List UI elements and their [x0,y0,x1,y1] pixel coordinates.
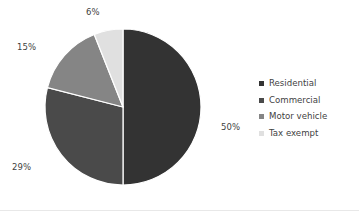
chart-legend: ResidentialCommercialMotor vehicleTax ex… [259,78,327,139]
legend-swatch-icon [259,114,264,119]
slice-label-residential: 50% [221,123,240,132]
legend-item-label: Commercial [269,96,320,105]
legend-item-label: Tax exempt [269,129,318,138]
legend-swatch-icon [259,81,264,86]
pie-svg [0,0,250,210]
slice-label-commercial: 29% [12,163,31,172]
plot-area: 50% 29% 15% 6% [0,0,250,210]
legend-item-label: Residential [269,79,316,88]
legend-item[interactable]: Tax exempt [259,128,327,139]
legend-item[interactable]: Commercial [259,95,327,106]
legend-item[interactable]: Residential [259,78,327,89]
slice-label-motor-vehicle: 15% [17,43,36,52]
legend-item-label: Motor vehicle [269,112,327,121]
legend-item[interactable]: Motor vehicle [259,111,327,122]
pie-slice-group [45,29,201,185]
slice-label-tax-exempt: 6% [86,8,100,17]
pie-slice [123,29,201,185]
footer-divider [0,210,359,211]
legend-swatch-icon [259,131,264,136]
pie-chart: 50% 29% 15% 6% ResidentialCommercialMoto… [0,0,359,220]
legend-swatch-icon [259,98,264,103]
